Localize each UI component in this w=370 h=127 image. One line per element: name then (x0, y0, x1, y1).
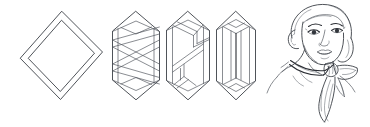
scarf-right-wing (337, 65, 358, 79)
portrait-ear (288, 30, 298, 49)
scarf-secondary-tail (337, 78, 345, 97)
portrait-neck (277, 50, 336, 86)
portrait-chin (321, 57, 329, 59)
scarf-folding-illustration (0, 0, 370, 127)
portrait-eyes (306, 28, 346, 35)
portrait-shoulders (267, 76, 355, 93)
scarf-hanging-tail (319, 77, 335, 122)
step-5-worn-result-portrait (0, 0, 370, 127)
portrait-lips (318, 50, 332, 54)
portrait-eyebrows (309, 24, 343, 27)
portrait-nose (319, 30, 329, 46)
